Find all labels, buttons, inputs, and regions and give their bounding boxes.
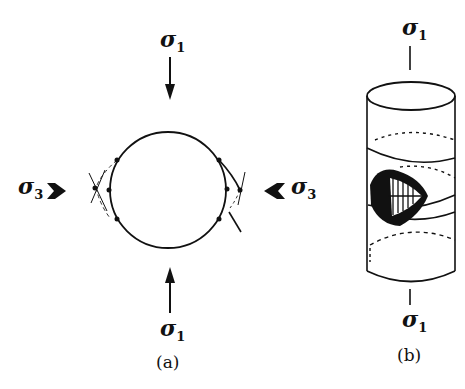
fracture-surface — [370, 170, 428, 226]
right-shear-fracture — [217, 158, 246, 233]
arrow-left-icon — [264, 183, 285, 199]
sigma1-top-label-b: σ1 — [402, 14, 427, 43]
sigma1-bottom-label-b: σ1 — [402, 306, 427, 335]
sigma3-left-label: σ3 — [18, 173, 43, 202]
arrow-up-icon — [165, 267, 175, 313]
panel-b-caption: (b) — [397, 345, 421, 365]
arrow-down-icon — [165, 57, 175, 100]
arrow-right-icon — [47, 183, 66, 199]
sigma1-top-label: σ1 — [160, 26, 185, 55]
sigma1-bottom-label: σ1 — [160, 315, 185, 344]
sigma3-right-label: σ3 — [291, 173, 316, 202]
specimen-circle — [110, 132, 226, 248]
panel-a: σ1 σ3 — [18, 26, 316, 372]
panel-b: σ1 — [367, 14, 455, 365]
figure-canvas: σ1 σ3 — [0, 0, 465, 389]
panel-a-caption: (a) — [156, 352, 179, 372]
